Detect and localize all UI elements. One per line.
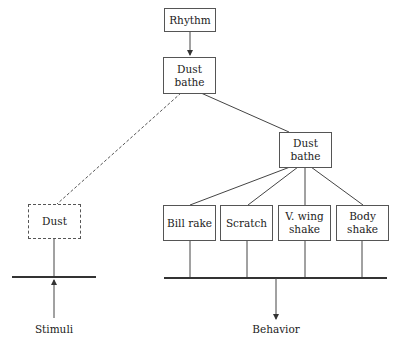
node-scratch: Scratch <box>220 205 273 241</box>
node-body-shake: Body shake <box>336 205 389 241</box>
edge-to-scratch <box>248 167 298 205</box>
dust-bathing-hierarchy-diagram: Rhythm Dust bathe Dust bathe Dust Bill r… <box>0 0 398 347</box>
node-v-wing-shake: V. wing shake <box>278 205 331 241</box>
node-bill-rake: Bill rake <box>163 205 216 241</box>
edge-dust-bathe-to-dust-bathe <box>201 93 289 132</box>
edge-to-body-shake <box>311 167 363 205</box>
edge-to-bill-rake <box>190 167 290 205</box>
connector-lines <box>0 0 398 347</box>
edge-dust-bathe-to-dust-dashed <box>57 93 181 204</box>
node-rhythm: Rhythm <box>164 8 216 32</box>
label-behavior: Behavior <box>252 323 300 335</box>
node-dust-bathe-mid: Dust bathe <box>279 132 332 168</box>
node-dust: Dust <box>28 204 81 239</box>
label-stimuli: Stimuli <box>35 323 73 335</box>
node-dust-bathe-top: Dust bathe <box>163 57 216 94</box>
